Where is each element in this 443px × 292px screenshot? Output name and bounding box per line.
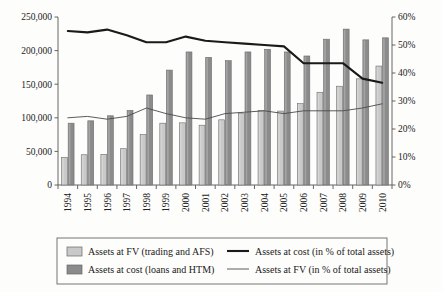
line-series-1 bbox=[68, 30, 382, 83]
bar-highlight bbox=[278, 112, 280, 185]
right-axis-tick-label: 50% bbox=[398, 40, 416, 50]
legend-item[interactable]: Assets at FV (trading and AFS) bbox=[67, 246, 214, 258]
legend-label: Assets at FV (trading and AFS) bbox=[88, 246, 214, 258]
bar-highlight bbox=[62, 158, 64, 184]
x-axis-tick-label: 2006 bbox=[299, 193, 309, 212]
right-axis-tick-label: 60% bbox=[398, 12, 416, 22]
bar-highlight bbox=[363, 40, 365, 184]
x-axis-tick-label: 2010 bbox=[378, 193, 388, 212]
left-axis-tick-label: 150,000 bbox=[21, 80, 52, 90]
legend-item[interactable]: Assets at cost (loans and HTM) bbox=[67, 264, 214, 276]
bar-highlight bbox=[160, 124, 162, 185]
bar-highlight bbox=[128, 111, 130, 184]
x-axis-tick-label: 2004 bbox=[260, 193, 270, 212]
bar-highlight bbox=[167, 71, 169, 185]
bar-highlight bbox=[265, 50, 267, 185]
legend-swatch bbox=[67, 265, 82, 274]
right-axis-tick-label: 30% bbox=[398, 96, 416, 106]
bar-highlight bbox=[239, 114, 241, 185]
bar-highlight bbox=[108, 116, 110, 184]
bar-highlight bbox=[200, 126, 202, 185]
bar-highlight bbox=[337, 87, 339, 185]
x-axis-tick-label: 2001 bbox=[201, 193, 211, 212]
bar-highlight bbox=[219, 120, 221, 184]
legend-swatch bbox=[67, 247, 82, 256]
legend-label: Assets at cost (in % of total assets) bbox=[255, 246, 394, 258]
bar-highlight bbox=[187, 53, 189, 185]
x-axis-tick-label: 2002 bbox=[220, 193, 230, 212]
bar-highlight bbox=[318, 93, 320, 185]
right-axis-tick-label: 10% bbox=[398, 152, 416, 162]
bar-highlight bbox=[206, 58, 208, 184]
left-axis-tick-label: 50,000 bbox=[26, 147, 52, 157]
bar-highlight bbox=[121, 149, 123, 184]
x-axis-tick-label: 2000 bbox=[181, 193, 191, 212]
right-axis-tick-label: 40% bbox=[398, 68, 416, 78]
bar-highlight bbox=[298, 104, 300, 184]
right-axis-tick-label: 0% bbox=[398, 180, 411, 190]
bar-highlight bbox=[377, 67, 379, 185]
legend-label: Assets at FV (in % of total assets) bbox=[255, 264, 391, 276]
x-axis-tick-label: 2007 bbox=[319, 193, 329, 212]
x-axis-tick-label: 1998 bbox=[142, 193, 152, 212]
bar-highlight bbox=[259, 111, 261, 184]
legend-label: Assets at cost (loans and HTM) bbox=[88, 264, 214, 276]
bar-highlight bbox=[82, 155, 84, 184]
x-axis-tick-label: 2003 bbox=[240, 193, 250, 212]
right-axis-tick-label: 20% bbox=[398, 124, 416, 134]
bar-highlight bbox=[141, 135, 143, 184]
x-axis-tick-label: 1994 bbox=[63, 193, 73, 212]
legend: Assets at FV (trading and AFS)Assets at … bbox=[57, 238, 394, 284]
bar-highlight bbox=[226, 61, 228, 184]
x-axis-tick-label: 2008 bbox=[338, 193, 348, 212]
line-series-2 bbox=[68, 104, 382, 119]
left-axis-tick-label: 200,000 bbox=[21, 46, 52, 56]
legend-item[interactable]: Assets at FV (in % of total assets) bbox=[227, 264, 391, 276]
x-axis-tick-label: 2005 bbox=[279, 193, 289, 212]
bar-highlight bbox=[69, 124, 71, 185]
bar-highlight bbox=[101, 155, 103, 184]
x-axis-tick-label: 1995 bbox=[83, 193, 93, 212]
bar-highlight bbox=[305, 57, 307, 185]
x-axis-tick-label: 1999 bbox=[161, 193, 171, 212]
combo-chart: 050,000100,000150,000200,000250,0000%10%… bbox=[0, 0, 443, 292]
bar-highlight bbox=[383, 38, 385, 184]
x-axis-tick-label: 2009 bbox=[358, 193, 368, 212]
bar-highlight bbox=[344, 30, 346, 185]
bar-highlight bbox=[88, 121, 90, 184]
bar-highlight bbox=[180, 123, 182, 184]
bar-highlight bbox=[324, 40, 326, 185]
x-axis-tick-label: 1996 bbox=[103, 193, 113, 212]
left-axis-tick-label: 250,000 bbox=[21, 12, 52, 22]
bar-highlight bbox=[357, 79, 359, 184]
left-axis-tick-label: 100,000 bbox=[21, 113, 52, 123]
bar-highlight bbox=[246, 53, 248, 185]
chart-figure: 050,000100,000150,000200,000250,0000%10%… bbox=[0, 0, 443, 292]
bar-highlight bbox=[285, 53, 287, 185]
left-axis-tick-label: 0 bbox=[47, 180, 52, 190]
legend-item[interactable]: Assets at cost (in % of total assets) bbox=[227, 246, 394, 258]
x-axis-tick-label: 1997 bbox=[122, 193, 132, 212]
